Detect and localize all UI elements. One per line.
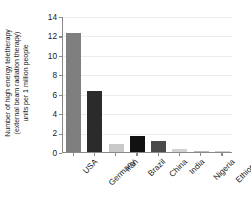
y-tick-label: 0: [17, 149, 57, 157]
bar-series: [63, 17, 232, 152]
y-tick-label: 10: [17, 52, 57, 60]
x-tick-mark: [221, 153, 222, 156]
x-tick-mark: [94, 153, 95, 156]
y-axis-title-line-1: Number of high energy teletherapy: [4, 3, 13, 163]
x-axis: USAGermanyIranBrazilChinaIndiaNigeriaEth…: [62, 153, 232, 204]
x-tick-label: India: [189, 158, 207, 176]
x-tick-label: China: [168, 158, 189, 179]
x-tick-mark: [115, 153, 116, 156]
bar: [130, 136, 145, 153]
x-tick-label: USA: [82, 158, 100, 176]
x-tick-mark: [136, 153, 137, 156]
x-tick-mark: [200, 153, 201, 156]
y-axis-title: Number of high energy teletherapy (exter…: [0, 0, 46, 165]
y-axis-title-line-3: units per 1 million people: [22, 3, 31, 163]
x-tick-label: Brazil: [147, 158, 167, 178]
bar: [172, 149, 187, 152]
x-tick-label: Ethiopia: [235, 158, 251, 185]
x-tick-label: Nigeria: [212, 158, 236, 182]
bar: [194, 151, 209, 152]
y-axis-title-line-2: (external beam radiation therapy): [13, 3, 22, 163]
plot-area: [62, 17, 232, 153]
x-tick-mark: [158, 153, 159, 156]
y-tick-label: 4: [17, 110, 57, 118]
bar: [215, 151, 230, 152]
y-tick-label: 12: [17, 32, 57, 40]
bar: [109, 144, 124, 152]
bar: [87, 91, 102, 152]
x-tick-mark: [73, 153, 74, 156]
bar-chart-figure: Number of high energy teletherapy (exter…: [0, 0, 251, 204]
y-tick-label: 8: [17, 71, 57, 79]
y-tick-label: 6: [17, 91, 57, 99]
y-tick-label: 14: [17, 13, 57, 21]
bar: [151, 141, 166, 152]
x-tick-mark: [179, 153, 180, 156]
bar: [66, 33, 81, 153]
y-tick-label: 2: [17, 129, 57, 137]
